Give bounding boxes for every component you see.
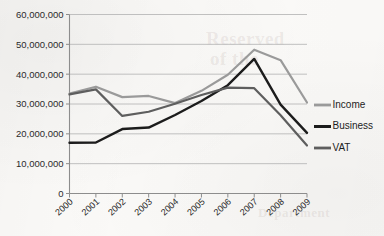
x-axis-tick-labels: 2000200120022003200420052006200720082009 xyxy=(53,197,312,218)
y-axis-tick-label: 30,000,000 xyxy=(16,98,64,109)
series-line-business xyxy=(70,59,308,143)
y-axis-tick-label: 20,000,000 xyxy=(16,128,64,139)
x-axis-tick-label: 2000 xyxy=(53,197,75,218)
y-axis-tick-label: 0 xyxy=(58,188,63,199)
x-axis-tick-marks xyxy=(70,194,308,198)
gridlines xyxy=(70,15,308,194)
y-axis-tick-label: 40,000,000 xyxy=(16,69,64,80)
y-axis-tick-label: 50,000,000 xyxy=(16,39,64,50)
chart-screenshot: Reserved of the Department 010,000,00020… xyxy=(0,0,384,236)
legend-label-vat: VAT xyxy=(333,142,351,153)
line-chart: 010,000,00020,000,00030,000,00040,000,00… xyxy=(0,0,384,236)
chart-legend: IncomeBusinessVAT xyxy=(314,99,373,153)
legend-label-income: Income xyxy=(333,99,366,110)
x-axis-tick-label: 2008 xyxy=(264,197,286,218)
data-series xyxy=(70,50,308,146)
y-axis-tick-label: 60,000,000 xyxy=(16,9,64,20)
x-axis-tick-label: 2001 xyxy=(80,197,102,218)
x-axis-tick-label: 2009 xyxy=(291,197,313,218)
x-axis-tick-label: 2003 xyxy=(132,197,154,218)
y-axis-tick-label: 10,000,000 xyxy=(16,158,64,169)
x-axis-tick-label: 2006 xyxy=(212,197,234,218)
x-axis-tick-label: 2005 xyxy=(185,197,207,218)
series-line-income xyxy=(70,50,308,103)
legend-label-business: Business xyxy=(333,120,374,131)
y-axis-tick-labels: 010,000,00020,000,00030,000,00040,000,00… xyxy=(16,9,70,199)
x-axis-tick-label: 2004 xyxy=(159,197,181,218)
x-axis-tick-label: 2007 xyxy=(238,197,260,218)
x-axis-tick-label: 2002 xyxy=(106,197,128,218)
